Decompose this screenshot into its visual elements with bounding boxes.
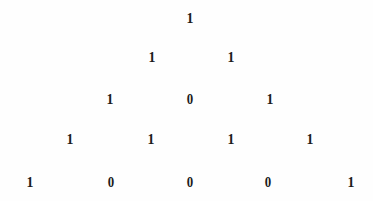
triangle-cell: 0 bbox=[108, 175, 114, 190]
triangle-cell: 1 bbox=[228, 132, 235, 147]
triangle-cell: 0 bbox=[187, 175, 193, 190]
triangle-cell: 1 bbox=[149, 50, 156, 65]
triangle-cell: 1 bbox=[307, 132, 314, 147]
triangle-cell: 1 bbox=[187, 11, 194, 26]
triangle-cell: 1 bbox=[228, 50, 235, 65]
triangle-cell: 0 bbox=[265, 175, 271, 190]
triangle-cell: 0 bbox=[187, 92, 193, 107]
binary-triangle-figure: 111101111110001 bbox=[0, 0, 373, 201]
triangle-cell: 1 bbox=[67, 132, 74, 147]
triangle-cell: 1 bbox=[107, 92, 114, 107]
triangle-cell: 1 bbox=[267, 92, 274, 107]
triangle-cell: 1 bbox=[27, 175, 34, 190]
triangle-cell: 1 bbox=[148, 132, 155, 147]
triangle-cell: 1 bbox=[348, 175, 355, 190]
